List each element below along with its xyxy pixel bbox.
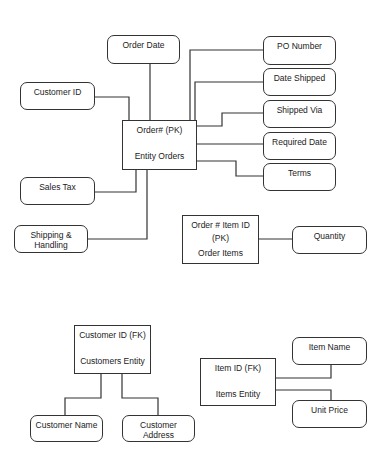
connector-shipped-via [197, 113, 263, 126]
entity-items[interactable]: Item ID (FK) Items Entity [200, 358, 276, 406]
entity-key-label: Order# (PK) [123, 125, 196, 135]
attribute-required-date[interactable]: Required Date [263, 132, 336, 160]
entity-orders[interactable]: Order# (PK) Entity Orders [122, 120, 197, 170]
attribute-label: Order Date [122, 40, 164, 50]
attribute-label: Terms [288, 168, 311, 178]
attribute-label-line1: Customer [123, 420, 194, 430]
attribute-unit-price[interactable]: Unit Price [292, 400, 367, 428]
connector-terms [197, 161, 263, 176]
attribute-item-name[interactable]: Item Name [292, 337, 367, 365]
attribute-order-date[interactable]: Order Date [107, 35, 180, 64]
entity-name-label: Customers Entity [75, 356, 150, 366]
attribute-shipping-handling[interactable]: Shipping & Handling [14, 225, 88, 253]
attribute-date-shipped[interactable]: Date Shipped [263, 68, 336, 96]
entity-order-items[interactable]: Order # Item ID (PK) Order Items [182, 215, 259, 264]
attribute-sales-tax[interactable]: Sales Tax [20, 177, 95, 205]
connector-po-number [190, 50, 263, 120]
connector-customer-address [122, 374, 158, 415]
attribute-label: Customer Name [36, 420, 98, 430]
attribute-customer-name[interactable]: Customer Name [30, 415, 103, 442]
attribute-label: Shipped Via [277, 105, 323, 115]
attribute-label-line2: Address [123, 430, 194, 440]
entity-key-label-line2: (PK) [183, 233, 258, 243]
attribute-terms[interactable]: Terms [263, 163, 336, 191]
entity-key-label: Customer ID (FK) [75, 330, 150, 340]
entity-name-label: Items Entity [201, 389, 275, 399]
entity-name-label: Order Items [183, 248, 258, 258]
entity-key-label: Order # Item ID [183, 220, 258, 230]
entity-key-label: Item ID (FK) [201, 363, 275, 373]
attribute-customer-id[interactable]: Customer ID [20, 82, 95, 110]
connector-item-name [276, 365, 331, 378]
attribute-label: Customer ID [34, 87, 82, 97]
entity-customers[interactable]: Customer ID (FK) Customers Entity [74, 325, 151, 374]
attribute-label: Sales Tax [39, 182, 76, 192]
connector-date-shipped [195, 82, 263, 120]
attribute-label: Item Name [309, 342, 351, 352]
connector-customer-name [65, 374, 101, 415]
attribute-quantity[interactable]: Quantity [292, 226, 367, 254]
attribute-label: Required Date [272, 137, 327, 147]
attribute-label: Quantity [314, 231, 346, 241]
attribute-label-line1: Shipping & [15, 230, 87, 240]
connector-unit-price [276, 390, 331, 400]
attribute-label-line2: Handling [15, 240, 87, 250]
attribute-label: Date Shipped [274, 73, 326, 83]
attribute-customer-address[interactable]: Customer Address [122, 415, 195, 442]
connector-shipping [88, 170, 147, 239]
connector-sales-tax [95, 170, 136, 192]
attribute-label: Unit Price [311, 405, 348, 415]
connector-customer-id [95, 97, 129, 120]
attribute-po-number[interactable]: PO Number [263, 36, 336, 65]
attribute-shipped-via[interactable]: Shipped Via [263, 100, 336, 128]
entity-name-label: Entity Orders [123, 151, 196, 161]
attribute-label: PO Number [277, 41, 322, 51]
